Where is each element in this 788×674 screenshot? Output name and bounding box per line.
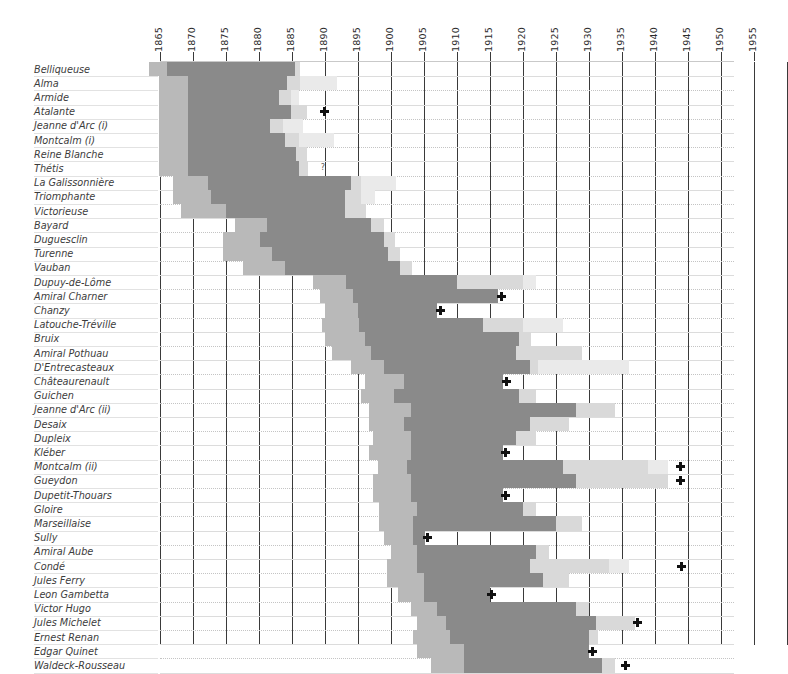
- bar-segment-build: [387, 559, 417, 573]
- bar-segment-service: [188, 161, 299, 175]
- ship-name-label: Atalante: [34, 105, 158, 119]
- bar-segment-tail: [361, 176, 397, 190]
- bar-segment-build: [417, 616, 446, 630]
- ship-name-label: Triomphante: [34, 190, 158, 204]
- bar-segment-build: [159, 133, 188, 147]
- bar-segment-build: [365, 374, 405, 388]
- ship-name-label: Latouche-Tréville: [34, 318, 158, 332]
- bar-segment-reserve: [457, 275, 523, 289]
- ship-name-label: Reine Blanche: [34, 148, 158, 162]
- ship-name-label: Montcalm (i): [34, 134, 158, 148]
- ship-label-column: BelliqueuseAlmaArmideAtalanteJeanne d'Ar…: [0, 62, 158, 647]
- bar-segment-reserve: [519, 389, 536, 403]
- bar-segment-tail: [299, 133, 335, 147]
- bar-segment-service: [272, 247, 388, 261]
- axis-tick: [226, 52, 227, 61]
- bar-segment-service: [188, 90, 279, 104]
- bar-segment-service: [188, 105, 291, 119]
- loss-marker-icon: [621, 661, 630, 670]
- ship-name-label: Ernest Renan: [34, 631, 158, 645]
- axis-tick: [457, 52, 458, 61]
- ship-name-label: Belliqueuse: [34, 63, 158, 77]
- bar-segment-build: [413, 630, 450, 644]
- ship-name-label: Gloire: [34, 503, 158, 517]
- loss-marker-icon: [320, 107, 329, 116]
- bar-segment-reserve: [563, 460, 649, 474]
- bar-segment-build: [159, 76, 188, 90]
- bar-segment-reserve: [351, 176, 360, 190]
- bar-segment-service: [358, 303, 437, 317]
- bar-segment-service: [285, 261, 400, 275]
- bar-segment-build: [159, 90, 188, 104]
- bar-segment-service: [437, 602, 576, 616]
- bar-segment-reserve: [536, 545, 549, 559]
- loss-marker-icon: [676, 476, 685, 485]
- year-tick-label: 1865: [153, 27, 164, 52]
- bar-segment-service: [359, 318, 483, 332]
- ship-name-label: Marseillaise: [34, 517, 158, 531]
- year-tick-label: 1900: [384, 27, 395, 52]
- bar-segment-build: [159, 147, 188, 161]
- bar-segment-build: [361, 389, 394, 403]
- bar-segment-build: [431, 658, 464, 672]
- year-tick-label: 1930: [582, 27, 593, 52]
- bar-segment-build: [373, 488, 411, 502]
- ship-name-label: Jules Michelet: [34, 616, 158, 630]
- ship-name-label: Vauban: [34, 261, 158, 275]
- axis-tick: [358, 52, 359, 61]
- bar-segment-tail: [523, 275, 536, 289]
- bar-segment-reserve: [400, 261, 412, 275]
- bar-segment-build: [149, 62, 166, 76]
- ship-name-label: Dupuy-de-Lôme: [34, 276, 158, 290]
- year-tick-label: 1895: [351, 27, 362, 52]
- uncertain-date-marker: ?: [321, 163, 325, 172]
- year-tick-label: 1925: [549, 27, 560, 52]
- bar-segment-reserve: [530, 559, 609, 573]
- axis-tick: [556, 52, 557, 61]
- bar-segment-reserve: [299, 161, 308, 175]
- ship-name-label: Kléber: [34, 446, 158, 460]
- bar-segment-service: [464, 658, 603, 672]
- year-tick-label: 1920: [516, 27, 527, 52]
- bar-segment-reserve: [556, 516, 582, 530]
- year-tick-label: 1915: [483, 27, 494, 52]
- ship-name-label: Bayard: [34, 219, 158, 233]
- bar-segment-service: [188, 133, 286, 147]
- ship-name-label: Dupleix: [34, 432, 158, 446]
- bar-segment-build: [379, 516, 413, 530]
- bar-segment-build: [398, 587, 424, 601]
- axis-tick: [292, 52, 293, 61]
- bar-segment-service: [411, 474, 576, 488]
- year-tick-label: 1905: [417, 27, 428, 52]
- bar-segment-service: [411, 403, 576, 417]
- axis-tick: [523, 52, 524, 61]
- bar-segment-service: [371, 346, 516, 360]
- axis-tick-row: [0, 52, 767, 62]
- bar-segment-build: [181, 204, 226, 218]
- year-tick-label: 1950: [714, 27, 725, 52]
- bar-segment-build: [379, 502, 417, 516]
- bar-segment-service: [188, 76, 287, 90]
- bar-segment-build: [320, 289, 353, 303]
- ship-name-label: La Galissonnière: [34, 176, 158, 190]
- year-tick-label: 1870: [186, 27, 197, 52]
- bar-segment-build: [369, 445, 411, 459]
- year-tick-label: 1945: [681, 27, 692, 52]
- bar-segment-service: [411, 488, 503, 502]
- bar-segment-build: [417, 644, 463, 658]
- bar-segment-service: [424, 587, 490, 601]
- year-tick-label: 1935: [615, 27, 626, 52]
- year-axis: 1865187018751880188518901895190019051910…: [0, 0, 767, 52]
- bar-segment-reserve: [296, 147, 307, 161]
- bar-segment-reserve: [530, 417, 570, 431]
- year-tick-label: 1890: [318, 27, 329, 52]
- bar-segment-build: [332, 346, 372, 360]
- bar-segment-service: [260, 232, 384, 246]
- bar-segment-build: [378, 460, 407, 474]
- axis-tick: [193, 52, 194, 61]
- bar-segment-build: [373, 431, 411, 445]
- year-tick-label: 1955: [747, 27, 758, 52]
- bar-segment-build: [159, 105, 188, 119]
- bar-segment-service: [417, 545, 536, 559]
